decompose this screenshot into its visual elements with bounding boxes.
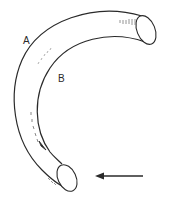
top-end-hatching bbox=[120, 19, 135, 25]
label-inner-wall-b: B bbox=[58, 74, 65, 84]
inner-wall-curve bbox=[37, 37, 145, 164]
surface-flow-arrowhead-icon bbox=[39, 141, 46, 150]
label-outer-wall-a: A bbox=[23, 36, 30, 46]
outer-wall-curve bbox=[14, 11, 142, 190]
flow-direction-arrow-icon bbox=[95, 173, 143, 180]
top-end-opening bbox=[132, 13, 160, 48]
outer-wall-hatching bbox=[38, 48, 51, 64]
diagram-canvas bbox=[0, 0, 171, 203]
bottom-end-opening bbox=[53, 162, 81, 195]
